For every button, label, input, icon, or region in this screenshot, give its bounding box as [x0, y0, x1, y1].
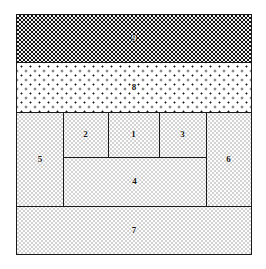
divider-h-9-8: [17, 62, 251, 63]
divider-v-3-6: [206, 112, 207, 206]
region-3-label: 3: [180, 130, 185, 139]
region-5-label: 5: [38, 155, 43, 164]
region-4[interactable]: 4: [63, 157, 206, 206]
divider-h-mid-7: [17, 206, 251, 207]
region-7[interactable]: 7: [17, 206, 251, 254]
region-7-label: 7: [132, 226, 137, 235]
divider-h-8-mid: [17, 112, 251, 113]
divider-h-top-4: [63, 157, 206, 158]
region-2-label: 2: [83, 130, 88, 139]
partition-diagram: 9 8 5 2 1 3 4 6 7: [16, 14, 252, 255]
region-1-label: 1: [131, 130, 136, 139]
region-9-label: 9: [132, 34, 137, 43]
region-1[interactable]: 1: [108, 112, 159, 157]
region-5[interactable]: 5: [17, 112, 63, 206]
region-6-label: 6: [226, 155, 231, 164]
region-4-label: 4: [132, 177, 137, 186]
region-8-label: 8: [132, 83, 137, 92]
region-9[interactable]: 9: [17, 15, 251, 62]
divider-v-1-3: [159, 112, 160, 157]
divider-v-2-1: [108, 112, 109, 157]
region-6[interactable]: 6: [206, 112, 251, 206]
region-3[interactable]: 3: [159, 112, 206, 157]
divider-v-5-2: [63, 112, 64, 206]
region-8[interactable]: 8: [17, 62, 251, 112]
region-2[interactable]: 2: [63, 112, 108, 157]
